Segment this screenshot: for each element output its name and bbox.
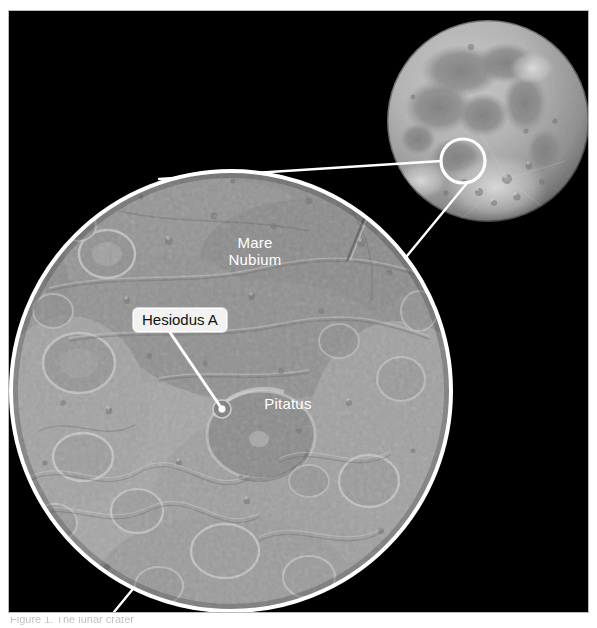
moon-globe	[387, 20, 588, 222]
hesiodus-leader-dot	[219, 406, 226, 413]
figure-page: Mare Nubium Pitatus Hesiodus A Figure 1.…	[0, 0, 597, 628]
figure-caption-text: Figure 1. The lunar crater	[10, 617, 550, 625]
moon-figure-graphic	[9, 11, 588, 612]
label-hesiodus-a: Hesiodus A	[133, 308, 227, 332]
magnified-region	[9, 169, 489, 612]
moon-photo-plate: Mare Nubium Pitatus Hesiodus A	[8, 10, 589, 613]
figure-caption: Figure 1. The lunar crater	[10, 617, 550, 628]
